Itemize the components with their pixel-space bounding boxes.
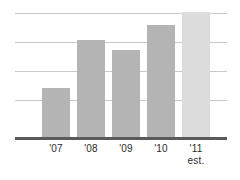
tick-label-text: '09 bbox=[119, 143, 133, 154]
tick-label-2008: '08 bbox=[74, 143, 108, 155]
tick-label-text: '10 bbox=[154, 143, 168, 154]
plot-area: '07 '08 '09 '10 '11 est. bbox=[0, 0, 240, 180]
tick-label-estimate-note: est. bbox=[179, 155, 213, 167]
bar-2011-estimate bbox=[182, 12, 210, 137]
bar-chart: '07 '08 '09 '10 '11 est. bbox=[0, 0, 240, 180]
x-axis-tick-labels: '07 '08 '09 '10 '11 est. bbox=[0, 143, 240, 180]
bar-2007 bbox=[42, 88, 70, 137]
tick-label-2010: '10 bbox=[144, 143, 178, 155]
bar-2009 bbox=[112, 50, 140, 137]
bar-2010 bbox=[147, 25, 175, 137]
tick-label-2009: '09 bbox=[109, 143, 143, 155]
tick-label-2011: '11 est. bbox=[179, 143, 213, 167]
x-axis-line bbox=[15, 137, 227, 140]
tick-label-text: '11 bbox=[190, 143, 203, 154]
tick-label-2007: '07 bbox=[39, 143, 73, 155]
bar-2008 bbox=[77, 40, 105, 137]
tick-label-text: '08 bbox=[84, 143, 98, 154]
tick-label-text: '07 bbox=[49, 143, 63, 154]
